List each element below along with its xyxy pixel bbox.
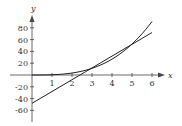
y-tick-label: 40 — [18, 47, 28, 56]
y-tick-label: -20 — [15, 83, 28, 92]
y-ticks: -60-40-2020406080 — [15, 24, 34, 116]
y-tick-label: 20 — [18, 59, 28, 68]
curve-line — [32, 21, 152, 75]
x-tick-label: 3 — [89, 79, 94, 88]
y-tick-label: 80 — [18, 24, 28, 33]
chart: x y 123456 -60-40-2020406080 — [0, 0, 182, 126]
y-axis-label: y — [30, 4, 36, 13]
x-axis-arrow-icon — [158, 73, 165, 78]
x-tick-label: 1 — [49, 79, 54, 88]
x-tick-label: 6 — [149, 79, 154, 88]
x-tick-label: 4 — [109, 79, 114, 88]
y-tick-label: 60 — [18, 36, 28, 45]
y-axis-arrow-icon — [30, 15, 35, 22]
x-tick-label: 5 — [129, 79, 134, 88]
y-tick-label: -40 — [15, 95, 28, 104]
x-axis-label: x — [168, 71, 173, 80]
tangent-line — [32, 33, 152, 104]
y-tick-label: -60 — [15, 106, 28, 115]
axes — [10, 20, 160, 122]
series — [32, 21, 152, 103]
